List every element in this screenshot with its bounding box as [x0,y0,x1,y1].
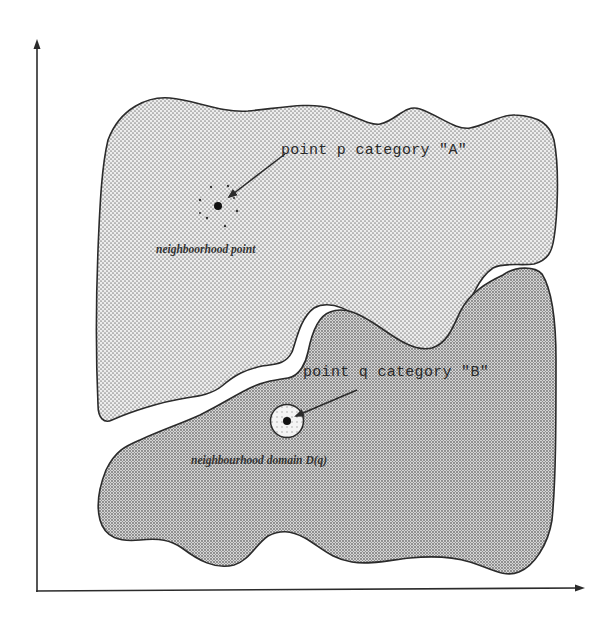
point-p-label: point p category "A" [281,142,467,159]
point-q-label: point q category "B" [303,364,489,381]
x-axis [36,588,580,591]
neighborhood-domain-label: neighbourhood domain D(q) [191,454,327,467]
point-q-marker [283,417,291,425]
point-p-marker [214,202,222,210]
neighborhood-point-label: neighboorhood point [156,243,256,256]
region-diagram: point p category "A" neighboorhood point… [0,0,616,622]
